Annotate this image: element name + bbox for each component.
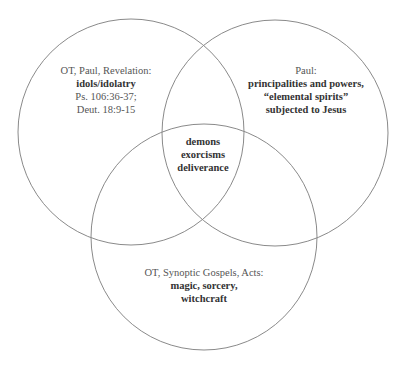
right-topic-2: “elemental spirits”	[236, 90, 376, 103]
venn-diagram	[0, 0, 403, 367]
center-topic-3: deliverance	[163, 161, 243, 174]
bottom-topic-2: witchcraft	[130, 292, 278, 305]
left-ref-1: Ps. 106:36-37;	[52, 90, 160, 103]
right-topic-3: subjected to Jesus	[236, 103, 376, 116]
left-region-label: OT, Paul, Revelation: idols/idolatry Ps.…	[52, 64, 160, 116]
right-topic-1: principalities and powers,	[236, 77, 376, 90]
circle-left	[18, 19, 244, 245]
right-source: Paul:	[236, 64, 376, 77]
center-topic-2: exorcisms	[163, 148, 243, 161]
bottom-region-label: OT, Synoptic Gospels, Acts: magic, sorce…	[130, 266, 278, 305]
bottom-topic-1: magic, sorcery,	[130, 279, 278, 292]
circle-right	[162, 20, 388, 246]
left-ref-2: Deut. 18:9-15	[52, 103, 160, 116]
center-topic-1: demons	[163, 135, 243, 148]
left-source: OT, Paul, Revelation:	[52, 64, 160, 77]
bottom-source: OT, Synoptic Gospels, Acts:	[130, 266, 278, 279]
right-region-label: Paul: principalities and powers, “elemen…	[236, 64, 376, 116]
center-region-label: demons exorcisms deliverance	[163, 135, 243, 174]
left-topic: idols/idolatry	[52, 77, 160, 90]
